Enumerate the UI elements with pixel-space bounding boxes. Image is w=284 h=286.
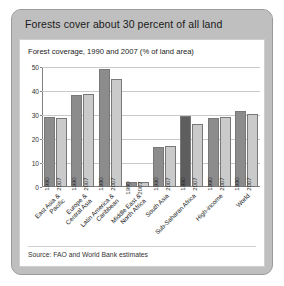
figure-card: Forests cover about 30 percent of all la… xyxy=(11,9,273,275)
x-axis-label: World xyxy=(235,192,252,209)
bar-year-label: 2007 xyxy=(191,177,198,190)
bar-year-label: 2007 xyxy=(164,177,171,190)
bar[interactable]: 1990 xyxy=(180,116,191,187)
x-axis-label-cell: World xyxy=(233,190,260,248)
bar[interactable]: 1990 xyxy=(235,111,246,187)
source-note: Source: FAO and World Bank estimates xyxy=(28,251,148,258)
bar[interactable]: 2007 xyxy=(192,124,203,187)
x-axis-label-cell: High-income xyxy=(206,190,233,248)
bar-group: 19902007 xyxy=(178,67,205,187)
bar[interactable]: 2007 xyxy=(220,117,231,187)
bar-year-label: 1990 xyxy=(206,177,213,190)
bar[interactable]: 2007 xyxy=(138,182,149,187)
bar-year-label: 1990 xyxy=(179,177,186,190)
y-axis-tick-label: 0 xyxy=(35,184,39,191)
bar-year-label: 1990 xyxy=(152,177,159,190)
bar-year-label: 2007 xyxy=(218,177,225,190)
x-axis-labels: East Asia &PacificEurope &Central AsiaLa… xyxy=(42,190,260,248)
bar-year-label: 1990 xyxy=(233,177,240,190)
source-divider xyxy=(28,246,256,247)
bar[interactable]: 2007 xyxy=(83,94,94,187)
bar-group: 19902007 xyxy=(206,67,233,187)
bar-year-label: 1990 xyxy=(43,177,50,190)
bar-year-label: 2007 xyxy=(245,177,252,190)
chart-panel: Forest coverage, 1990 and 2007 (% of lan… xyxy=(19,39,265,267)
y-axis-tick-label: 20 xyxy=(32,136,39,143)
bar[interactable]: 2007 xyxy=(111,79,122,187)
bar-group: 19902007 xyxy=(151,67,178,187)
bar-groups: 1990200719902007199020071990200719902007… xyxy=(42,67,260,187)
figure-title: Forests cover about 30 percent of all la… xyxy=(25,18,222,30)
bar-year-label: 2007 xyxy=(82,177,89,190)
y-axis-tick-label: 10 xyxy=(32,160,39,167)
bar-group: 19902007 xyxy=(233,67,260,187)
bar-group: 19902007 xyxy=(69,67,96,187)
bar-group: 19902007 xyxy=(124,67,151,187)
bar-year-label: 2007 xyxy=(109,177,116,190)
bar-year-label: 2007 xyxy=(55,177,62,190)
bar[interactable]: 2007 xyxy=(56,118,67,187)
bar[interactable]: 1990 xyxy=(44,117,55,187)
y-axis-tick-label: 30 xyxy=(32,112,39,119)
y-axis-tick-label: 50 xyxy=(32,64,39,71)
chart-subtitle: Forest coverage, 1990 and 2007 (% of lan… xyxy=(28,47,194,56)
x-axis-label-cell: Middle East &North Africa xyxy=(124,190,151,248)
bar[interactable]: 1990 xyxy=(153,147,164,187)
bar[interactable]: 2007 xyxy=(247,114,258,187)
y-axis-tick-label: 40 xyxy=(32,88,39,95)
y-axis-tick-mark xyxy=(40,187,42,188)
bar-group: 19902007 xyxy=(97,67,124,187)
bar-year-label: 1990 xyxy=(70,177,77,190)
bar-year-label: 1990 xyxy=(97,177,104,190)
x-axis-label: East Asia &Pacific xyxy=(33,192,66,225)
bar[interactable]: 1990 xyxy=(208,118,219,187)
figure-title-bar: Forests cover about 30 percent of all la… xyxy=(12,10,272,37)
bar[interactable]: 2007 xyxy=(165,146,176,187)
plot-area: 01020304050 1990200719902007199020071990… xyxy=(42,67,260,187)
bar[interactable]: 1990 xyxy=(99,69,110,187)
bar[interactable]: 1990 xyxy=(71,95,82,187)
bar-group: 19902007 xyxy=(42,67,69,187)
